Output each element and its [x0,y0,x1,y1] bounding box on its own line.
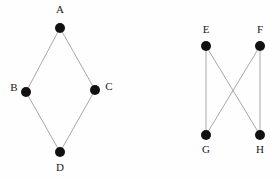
graph-node-label-f: F [257,23,263,35]
graph-node-d[interactable] [55,147,65,157]
graph-node-label-a: A [56,3,64,15]
graph-node-a[interactable] [55,23,65,33]
graph-canvas: ABCDEFGH [0,0,280,179]
graph-node-c[interactable] [90,85,100,95]
graph-node-f[interactable] [255,41,265,51]
graph-edge-c-d [60,90,95,152]
graph-node-label-g: G [202,143,210,155]
graph-node-b[interactable] [21,87,31,97]
graph-node-h[interactable] [255,130,265,140]
graph-node-label-h: H [256,143,264,155]
graph-figure: ABCDEFGH [0,0,280,179]
graph-node-label-b: B [10,81,17,93]
graph-node-g[interactable] [201,130,211,140]
nodes-layer [21,23,265,157]
labels-layer: ABCDEFGH [10,3,264,173]
graph-node-label-d: D [56,161,64,173]
graph-edge-b-d [26,92,60,152]
graph-edge-a-c [60,28,95,90]
graph-node-label-c: C [105,80,112,92]
graph-edge-a-b [26,28,60,92]
graph-node-e[interactable] [201,41,211,51]
edges-layer [26,28,260,152]
graph-node-label-e: E [203,23,210,35]
